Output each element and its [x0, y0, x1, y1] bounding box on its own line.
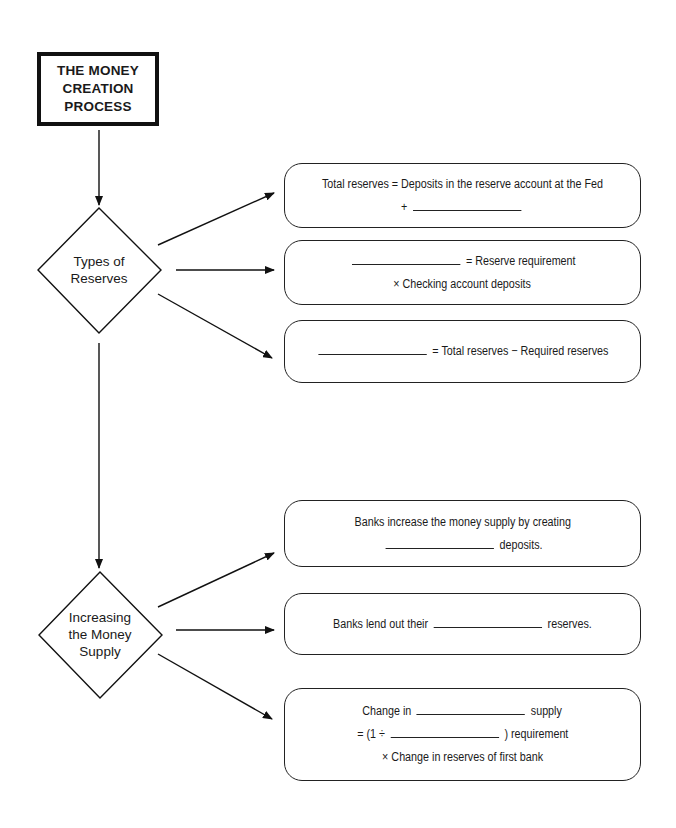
box-total-reserves: Total reserves = Deposits in the reserve… [284, 163, 641, 228]
arrow-to-box-1 [158, 193, 274, 245]
text: Banks increase the money supply by creat… [354, 515, 570, 529]
title-box: THE MONEY CREATION PROCESS [37, 52, 159, 126]
box-lend-reserves: Banks lend out their reserves. [284, 593, 641, 655]
box-line: Change in supply [363, 700, 563, 723]
box-line: Banks increase the money supply by creat… [354, 511, 570, 534]
box-line: = Reserve requirement [349, 250, 575, 273]
title-line: CREATION [57, 80, 139, 98]
box-line: = Total reserves − Required reserves [316, 340, 609, 363]
text: ) requirement [504, 727, 568, 741]
text: Total reserves = Deposits in the reserve… [322, 177, 603, 191]
box-required-reserves: = Reserve requirement × Checking account… [284, 240, 641, 305]
title-line: PROCESS [57, 98, 139, 116]
text: deposits. [499, 538, 542, 552]
text: = (1 ÷ [357, 727, 385, 741]
fill-in-blank[interactable] [385, 536, 493, 549]
fill-in-blank[interactable] [352, 252, 460, 265]
text: Change in [363, 704, 412, 718]
arrow-to-box-3 [158, 294, 272, 358]
arrow-to-box-4 [158, 553, 274, 607]
fill-in-blank[interactable] [390, 725, 498, 738]
text: Banks lend out their [333, 617, 428, 631]
arrow-to-box-6 [158, 654, 272, 719]
fill-in-blank[interactable] [434, 615, 542, 628]
diamond-label-increasing-money-supply: Increasing the Money Supply [50, 609, 150, 660]
box-line: Banks lend out their reserves. [333, 613, 592, 636]
diamond-label-line: Reserves [49, 270, 149, 287]
text: = Reserve requirement [466, 254, 576, 268]
box-excess-reserves: = Total reserves − Required reserves [284, 320, 641, 383]
diamond-label-line: the Money [50, 626, 150, 643]
box-line: × Change in reserves of first bank [382, 746, 543, 769]
text: + [401, 200, 407, 214]
diamond-label-line: Supply [50, 643, 150, 660]
box-line: deposits. [383, 534, 543, 557]
box-line: + [401, 196, 524, 219]
box-line: = (1 ÷ ) requirement [357, 723, 568, 746]
box-money-multiplier: Change in supply = (1 ÷ ) requirement × … [284, 688, 641, 781]
box-create-deposits: Banks increase the money supply by creat… [284, 500, 641, 567]
diamond-label-types-of-reserves: Types of Reserves [49, 253, 149, 287]
fill-in-blank[interactable] [417, 702, 525, 715]
text: × Checking account deposits [394, 277, 532, 291]
box-line: Total reserves = Deposits in the reserve… [322, 173, 603, 196]
text: supply [531, 704, 562, 718]
title-line: THE MONEY [57, 62, 139, 80]
fill-in-blank[interactable] [413, 198, 521, 211]
box-line: × Checking account deposits [394, 273, 532, 296]
fill-in-blank[interactable] [319, 342, 427, 355]
text: reserves. [548, 617, 592, 631]
diamond-label-line: Types of [49, 253, 149, 270]
text: × Change in reserves of first bank [382, 750, 543, 764]
text: = Total reserves − Required reserves [433, 344, 609, 358]
diamond-label-line: Increasing [50, 609, 150, 626]
